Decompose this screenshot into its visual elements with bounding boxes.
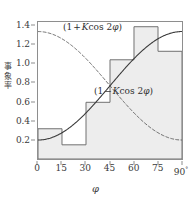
- y-axis-title-char: 事: [2, 62, 13, 72]
- y-tick-label: 0.8: [16, 78, 30, 87]
- x-tick-label: 15: [55, 164, 66, 173]
- annotation-upper-curve: (1+Kcos 2φ): [63, 22, 122, 32]
- y-axis-title-char: 象: [2, 72, 13, 82]
- y-axis-title-char: 率: [2, 81, 13, 91]
- y-tick-mark: [31, 43, 35, 44]
- y-axis: 1.4 1.2 1.0 0.8 0.6 0.4 0.2: [0, 21, 35, 160]
- annotation-close: ): [119, 22, 123, 32]
- y-tick-mark: [31, 120, 35, 121]
- y-tick-label: 0.4: [16, 116, 30, 125]
- y-tick-label: 1.0: [16, 59, 30, 68]
- y-tick-mark: [31, 82, 35, 83]
- annotation-operator: −: [103, 86, 113, 96]
- x-axis-title: φ: [0, 183, 191, 194]
- annotation-operator: +: [72, 22, 82, 32]
- y-tick-label: 0.2: [16, 136, 30, 145]
- x-tick-label: 0: [34, 164, 40, 173]
- y-tick-mark: [31, 63, 35, 64]
- annotation-coefficient: K: [82, 22, 89, 32]
- y-axis-title: 事 象 率: [2, 62, 13, 91]
- annotation-function: cos 2: [89, 22, 113, 32]
- x-tick-label-last: 90°: [174, 164, 188, 177]
- degree-symbol: °: [185, 165, 188, 172]
- y-tick-label: 0.6: [16, 97, 30, 106]
- annotation-function: cos 2: [120, 86, 144, 96]
- x-tick-label: 45: [104, 164, 115, 173]
- x-axis: 0 15 30 45 60 75 90°: [37, 162, 183, 176]
- annotation-lower-curve: (1−Kcos 2φ): [94, 86, 153, 96]
- y-tick-label: 1.2: [16, 39, 30, 48]
- x-tick-label: 30: [80, 164, 91, 173]
- x-tick-label: 60: [128, 164, 139, 173]
- y-tick-label: 1.4: [16, 20, 30, 29]
- chart-figure: 1.4 1.2 1.0 0.8 0.6 0.4 0.2 事 象 率 (1+Kco…: [0, 0, 191, 206]
- annotation-coefficient: K: [113, 86, 120, 96]
- x-tick-label: 75: [152, 164, 163, 173]
- y-tick-mark: [31, 24, 35, 25]
- y-tick-mark: [31, 140, 35, 141]
- x-tick-label: 90: [174, 167, 185, 177]
- annotation-open: (1: [63, 22, 72, 32]
- y-tick-mark: [31, 101, 35, 102]
- annotation-open: (1: [94, 86, 103, 96]
- annotation-close: ): [150, 86, 154, 96]
